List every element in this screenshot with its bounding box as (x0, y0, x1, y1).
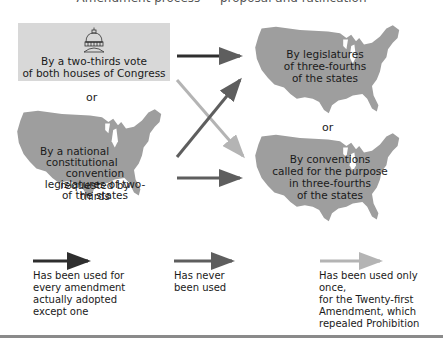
legend-dark-text: Has been used for every amendment actual… (33, 270, 125, 318)
legend-light-line-3: Amendment, which (319, 306, 443, 318)
legend-light-text: Has been used only once, for the Twenty-… (319, 270, 443, 330)
legend-dark-line-2: every amendment (33, 282, 125, 294)
legend-light-line-1: Has been used only once, (319, 270, 443, 294)
legend-dark-line-1: Has been used for (33, 270, 125, 282)
bottom-divider (0, 335, 443, 338)
legend-medium-text: Has never been used (174, 270, 226, 294)
legend-light-line-4: repealed Prohibition (319, 318, 443, 330)
legend-dark-line-3: actually adopted (33, 294, 125, 306)
legend-medium-line-2: been used (174, 282, 226, 294)
legend-light-line-2: for the Twenty-first (319, 294, 443, 306)
legend-dark-line-4: except one (33, 306, 125, 318)
legend-medium-line-1: Has never (174, 270, 226, 282)
